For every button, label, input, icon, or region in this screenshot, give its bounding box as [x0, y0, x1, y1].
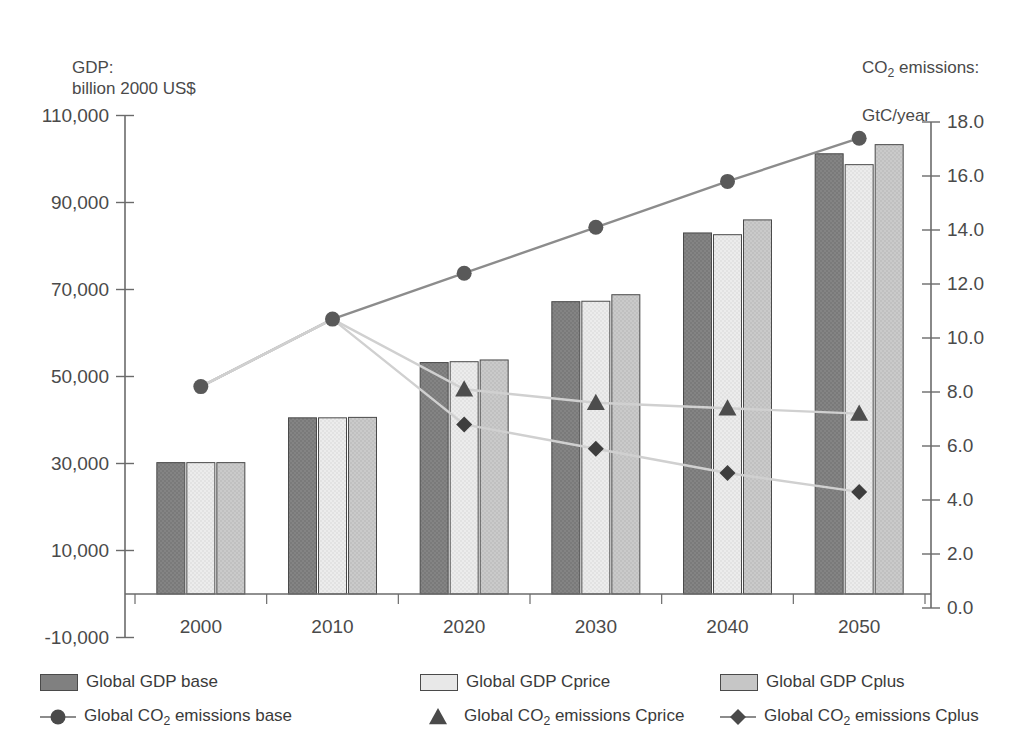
legend-label: Global GDP Cprice — [466, 672, 610, 692]
legend-item-line[interactable]: Global CO2 emissions Cprice — [420, 706, 684, 728]
point-co2_base — [720, 174, 735, 189]
legend-item-line[interactable]: Global CO2 emissions Cplus — [720, 706, 979, 728]
legend-item-line[interactable]: Global CO2 emissions base — [40, 706, 292, 728]
x-axis-tick-label: 2010 — [311, 616, 353, 638]
legend-item-bar[interactable]: Global GDP Cprice — [420, 672, 610, 692]
left-axis-tick-label: 30,000 — [51, 453, 109, 475]
right-axis-tick-label: 6.0 — [947, 435, 973, 457]
right-axis-tick-label: 4.0 — [947, 489, 973, 511]
bar-gdp_base — [684, 233, 712, 594]
right-axis-tick-label: 10.0 — [947, 327, 984, 349]
bar-gdp_base — [157, 463, 185, 594]
legend-swatch-icon — [720, 674, 758, 691]
legend-marker-circle-icon — [40, 708, 76, 726]
right-axis-tick-label: 14.0 — [947, 219, 984, 241]
bar-gdp_cplus — [875, 145, 903, 594]
bar-gdp_cprice — [319, 418, 347, 594]
legend-swatch-icon — [40, 674, 78, 691]
legend-marker-triangle-icon — [420, 708, 456, 726]
right-axis-tick-label: 12.0 — [947, 273, 984, 295]
right-axis-tick-label: 2.0 — [947, 543, 973, 565]
legend-label: Global CO2 emissions Cplus — [764, 706, 979, 728]
bar-gdp_base — [815, 154, 843, 594]
bar-gdp_cplus — [217, 463, 245, 594]
legend-label: Global CO2 emissions base — [84, 706, 292, 728]
legend-item-bar[interactable]: Global GDP base — [40, 672, 218, 692]
right-axis-tick-label: 18.0 — [947, 111, 984, 133]
left-axis-tick-label: -10,000 — [45, 627, 109, 649]
bar-group — [815, 145, 903, 594]
bar-gdp_cplus — [612, 295, 640, 594]
bar-gdp_cplus — [744, 220, 772, 594]
bar-gdp_cplus — [349, 417, 377, 594]
x-axis-tick-label: 2050 — [838, 616, 880, 638]
left-axis-tick-label: 70,000 — [51, 279, 109, 301]
x-axis-tick-label: 2040 — [706, 616, 748, 638]
legend-label: Global CO2 emissions Cprice — [464, 706, 684, 728]
point-co2_base — [457, 266, 472, 281]
legend-label: Global GDP base — [86, 672, 218, 692]
bar-group-layer — [157, 145, 903, 594]
right-axis-tick-label: 16.0 — [947, 165, 984, 187]
marker-diamond — [730, 709, 746, 725]
bar-group — [157, 463, 245, 594]
point-co2_base — [325, 312, 340, 327]
left-axis-tick-label: 50,000 — [51, 366, 109, 388]
legend-marker-diamond-icon — [720, 708, 756, 726]
marker-circle — [51, 710, 66, 725]
bar-gdp_cprice — [187, 463, 215, 594]
bar-gdp_cplus — [480, 360, 508, 594]
point-co2_base — [852, 131, 867, 146]
right-axis-tick-label: 8.0 — [947, 381, 973, 403]
bar-gdp_cprice — [450, 362, 478, 594]
chart-container: GDP: billion 2000 US$ CO2 emissions: GtC… — [0, 0, 1034, 750]
right-axis-tick-label: 0.0 — [947, 597, 973, 619]
bar-gdp_cprice — [845, 165, 873, 594]
legend-item-bar[interactable]: Global GDP Cplus — [720, 672, 905, 692]
x-axis-tick-label: 2030 — [575, 616, 617, 638]
bar-gdp_base — [420, 363, 448, 594]
point-co2_base — [193, 379, 208, 394]
x-axis-tick-label: 2000 — [180, 616, 222, 638]
legend-swatch-icon — [420, 674, 458, 691]
marker-triangle — [429, 708, 447, 724]
x-axis-tick-label: 2020 — [443, 616, 485, 638]
bar-group — [289, 417, 377, 594]
left-axis-tick-label: 10,000 — [51, 540, 109, 562]
left-axis-tick-label: 110,000 — [42, 105, 109, 127]
left-axis-tick-label: 90,000 — [51, 192, 109, 214]
bar-gdp_base — [552, 302, 580, 594]
bar-gdp_base — [289, 418, 317, 594]
point-co2_base — [588, 220, 603, 235]
legend-label: Global GDP Cplus — [766, 672, 905, 692]
